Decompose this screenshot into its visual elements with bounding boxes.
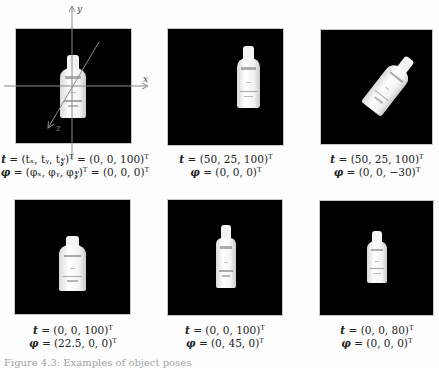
image-panel-translated bbox=[168, 29, 283, 145]
pose-caption-2: t = (50, 25, 100)T φ = (0, 0, 0)T bbox=[179, 153, 272, 179]
bottle-image bbox=[237, 46, 260, 108]
y-axis-label: y bbox=[76, 4, 83, 14]
pose-caption-3: t = (50, 25, 100)T φ = (0, 0, −30)T bbox=[330, 153, 423, 179]
bottle-image bbox=[361, 51, 420, 117]
x-axis-label: x bbox=[143, 74, 148, 84]
bottle-image bbox=[59, 236, 86, 291]
pose-caption-6: t = (0, 0, 80)T φ = (0, 0, 0)T bbox=[340, 324, 413, 350]
image-panel-rotated-x bbox=[15, 200, 130, 314]
image-panel-rotated-y bbox=[168, 200, 282, 315]
bottle-image bbox=[367, 231, 387, 283]
coordinate-axes: y x z bbox=[0, 0, 160, 170]
pose-caption-5: t = (0, 0, 100)T φ = (0, 45, 0)T bbox=[185, 324, 265, 350]
pose-caption-1: t = (tₓ, tᵧ, t𝓏)T = (0, 0, 100)T φ = (φₓ… bbox=[1, 153, 149, 179]
bottle-image bbox=[216, 225, 236, 288]
z-axis-label: z bbox=[55, 123, 61, 133]
image-panel-translated-rotated bbox=[321, 30, 432, 144]
z-axis bbox=[48, 42, 99, 128]
figure-caption: Figure 4.3: Examples of object poses bbox=[4, 357, 191, 368]
image-panel-closer bbox=[320, 201, 433, 315]
pose-caption-4: t = (0, 0, 100)T φ = (22.5, 0, 0)T bbox=[29, 324, 117, 350]
